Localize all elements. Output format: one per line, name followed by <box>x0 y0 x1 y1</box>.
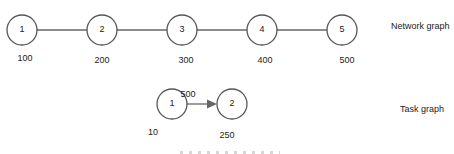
network-node-2-value: 200 <box>94 55 109 65</box>
clipped-caption <box>180 151 280 154</box>
network-node-1-value: 100 <box>17 53 32 63</box>
task-node-1-id: 1 <box>169 98 174 108</box>
network-node-1-id: 1 <box>19 24 24 34</box>
network-node-5-id: 5 <box>339 24 344 34</box>
task-node-1-value: 10 <box>148 127 158 137</box>
network-node-5-value: 500 <box>339 55 354 65</box>
task-edge <box>187 100 217 109</box>
network-node-3-value: 300 <box>178 55 193 65</box>
network-node-4-value: 400 <box>257 55 272 65</box>
network-node-3-id: 3 <box>179 24 184 34</box>
task-graph-title: Task graph <box>400 104 444 114</box>
network-graph-title: Network graph <box>391 21 450 31</box>
network-node-4-id: 4 <box>259 24 264 34</box>
network-node-2-id: 2 <box>99 24 104 34</box>
task-node-2-value: 250 <box>219 130 234 140</box>
task-node-2-id: 2 <box>229 98 234 108</box>
task-edge-weight: 500 <box>180 89 195 99</box>
